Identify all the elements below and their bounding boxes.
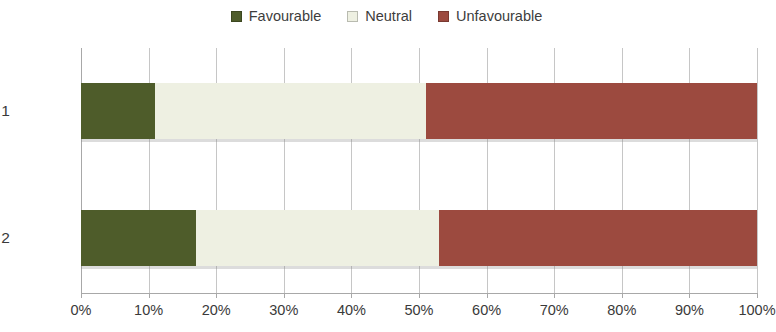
- x-axis-tickmark: [554, 293, 555, 298]
- bar-segment-favourable[interactable]: [81, 83, 155, 139]
- plot-area: [81, 48, 757, 293]
- bar-segment-shadow: [155, 139, 425, 142]
- bar-segment-favourable[interactable]: [81, 210, 196, 266]
- bar-row: [81, 210, 757, 266]
- x-axis-tick-label: 20%: [202, 302, 231, 318]
- x-axis-tickmark: [622, 293, 623, 298]
- x-axis-tick-label: 50%: [404, 302, 433, 318]
- bar-segment-shadow: [81, 139, 155, 142]
- x-axis-tickmark: [284, 293, 285, 298]
- x-axis-tickmark: [487, 293, 488, 298]
- x-axis-tick-label: 60%: [472, 302, 501, 318]
- bar-segment-unfavourable[interactable]: [439, 210, 757, 266]
- x-axis-tick-label: 80%: [607, 302, 636, 318]
- bar-segment-neutral[interactable]: [155, 83, 425, 139]
- bar-segment-shadow: [81, 266, 196, 269]
- x-axis-tickmark: [757, 293, 758, 298]
- x-axis-tickmark: [689, 293, 690, 298]
- x-axis-tickmark: [149, 293, 150, 298]
- bar-row: [81, 83, 757, 139]
- bar-segment-shadow: [439, 266, 757, 269]
- y-axis-category-label: Phase 2: [0, 229, 10, 247]
- x-axis-tick-label: 30%: [269, 302, 298, 318]
- x-axis-tick-label: 100%: [738, 302, 775, 318]
- bar-segment-neutral[interactable]: [196, 210, 439, 266]
- gridline: [757, 48, 758, 293]
- bar-segment-shadow: [196, 266, 439, 269]
- x-axis-tick-label: 90%: [675, 302, 704, 318]
- x-axis-tick-label: 0%: [71, 302, 92, 318]
- bar-segment-shadow: [426, 139, 757, 142]
- x-axis-tickmark: [351, 293, 352, 298]
- x-axis-tickmark: [216, 293, 217, 298]
- bar-segment-unfavourable[interactable]: [426, 83, 757, 139]
- x-axis-tick-label: 10%: [134, 302, 163, 318]
- y-axis-category-label: Phase 1: [0, 102, 10, 120]
- x-axis-tickmark: [81, 293, 82, 298]
- x-axis-tick-label: 70%: [540, 302, 569, 318]
- x-axis-tickmark: [419, 293, 420, 298]
- x-axis-tick-label: 40%: [337, 302, 366, 318]
